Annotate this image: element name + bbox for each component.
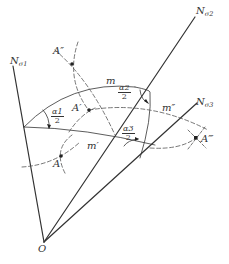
angle-denominator: 2 (51, 117, 64, 125)
axis-label-name: N (196, 96, 205, 107)
arc-through-a-double-prime (55, 50, 115, 135)
label-a-prime: A′ (72, 103, 82, 113)
point-a-triple-prime (194, 136, 198, 140)
axis-n-sigma1 (13, 66, 44, 242)
label-m-double-prime: m″ (162, 103, 175, 113)
angle-alpha2-half: α2 2 (118, 84, 131, 101)
axis-label-sub: σ3 (205, 101, 214, 109)
point-a-double-prime (70, 62, 74, 66)
axis-label-sub: σ2 (205, 10, 214, 18)
label-m: m (106, 76, 115, 86)
label-origin: O (38, 244, 46, 254)
axis-label-name: N (196, 5, 205, 16)
rotation-diagram (0, 0, 229, 264)
label-a-double-prime: A″ (53, 46, 64, 56)
label-n-sigma3: Nσ3 (196, 97, 213, 109)
label-n-sigma1: Nσ1 (10, 56, 27, 68)
angle-alpha3-half: α3 2 (122, 125, 135, 142)
angle-denominator: 2 (122, 134, 135, 142)
point-a-prime (87, 108, 91, 112)
angle-denominator: 2 (118, 93, 131, 101)
axis-label-name: N (10, 55, 19, 66)
label-a: A (53, 159, 60, 169)
axis-n-sigma3 (44, 103, 197, 242)
label-m-prime: m′ (87, 141, 99, 151)
label-a-triple-prime: A‴ (201, 134, 213, 144)
label-n-sigma2: Nσ2 (196, 6, 213, 18)
axis-label-sub: σ1 (19, 60, 28, 68)
angle-alpha1-half: α1 2 (51, 108, 64, 125)
